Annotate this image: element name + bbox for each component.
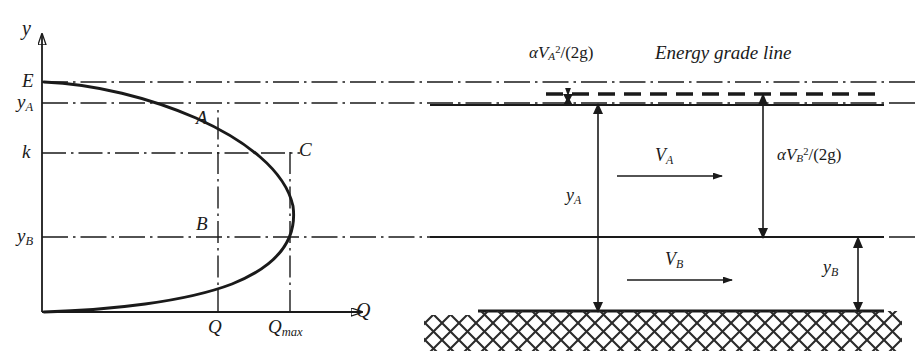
left-chart-group (42, 34, 918, 312)
x-tick-Q-text: Q (208, 316, 222, 337)
velocity-head-B-denom: /(2g) (808, 145, 841, 164)
curve-point-label-C: C (299, 140, 312, 159)
velocity-head-B-V: V (786, 145, 796, 164)
velocity-A-sub: A (666, 153, 673, 167)
y-tick-label-yA: yA (17, 92, 33, 113)
depth-A-sub: A (574, 193, 581, 207)
depth-B-label: yB (823, 258, 838, 278)
velocity-head-A-V: V (538, 43, 548, 62)
depth-B-sub: B (831, 265, 838, 279)
x-axis-label: Q (356, 300, 370, 320)
channel-bed-hatch (424, 311, 902, 351)
hatch-mask-left (424, 311, 478, 315)
y-tick-label-E: E (22, 71, 34, 90)
depth-B-y: y (823, 257, 831, 277)
depth-A-y: y (566, 185, 574, 205)
curve-point-label-A: A (196, 108, 208, 127)
x-tick-Qmax-text: Q (268, 316, 282, 337)
velocity-A-V: V (655, 145, 666, 165)
y-axis-label: y (22, 18, 31, 38)
velocity-head-A-denom: /(2g) (560, 43, 593, 62)
velocity-head-B-label: αVB2/(2g) (777, 146, 842, 165)
velocity-head-B-alpha: α (777, 145, 786, 164)
y-tick-label-yB: yB (17, 226, 33, 247)
velocity-B-V: V (665, 249, 676, 269)
velocity-head-A-alpha: α (529, 43, 538, 62)
velocity-A-label: VA (655, 146, 673, 166)
right-diagram-group (424, 93, 902, 351)
curve-point-label-B: B (196, 214, 208, 233)
specific-energy-curve (44, 82, 294, 312)
energy-grade-line-label: Energy grade line (655, 43, 791, 62)
x-tick-Qmax-sub: max (282, 325, 303, 339)
velocity-B-label: VB (665, 250, 683, 270)
y-tick-label-k: k (22, 142, 30, 161)
y-tick-E-text: E (22, 70, 34, 91)
depth-A-label: yA (566, 186, 581, 206)
dim-arrowhead-A-bottom (563, 97, 573, 106)
x-tick-label-Qmax: Qmax (268, 317, 303, 338)
velocity-B-sub: B (676, 257, 683, 271)
x-tick-label-Q: Q (208, 317, 222, 336)
y-tick-yB-sub: B (25, 234, 33, 248)
velocity-head-A-label: αVA2/(2g) (529, 44, 594, 63)
y-tick-yA-sub: A (25, 100, 33, 114)
specific-energy-figure: y Q E yA k yB Q Qmax A C B αVA2/(2g) Ene… (0, 0, 918, 356)
y-tick-k-text: k (22, 141, 30, 162)
